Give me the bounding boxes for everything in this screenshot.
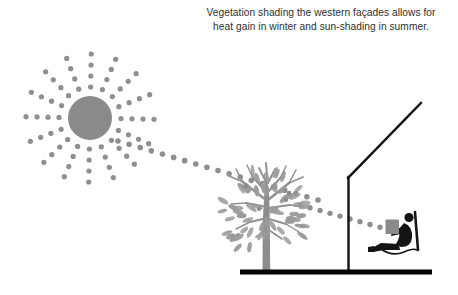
sun-ray — [116, 128, 151, 146]
sun-ray — [116, 92, 152, 109]
sun-ray-dot — [58, 85, 63, 90]
solar-ray-dot — [327, 211, 332, 216]
sun-ray-dot — [117, 146, 122, 151]
sun-ray-dot — [109, 138, 114, 143]
sun-ray-dot — [129, 116, 134, 121]
sun-ray-dot — [87, 157, 92, 162]
tree-leaf — [233, 242, 243, 253]
tree-leaf — [294, 184, 304, 194]
sun-ray — [118, 116, 156, 122]
sun-ray-dot — [99, 144, 104, 149]
sun-ray-dot — [86, 168, 91, 173]
solar-ray-dot — [337, 213, 342, 218]
sun-ray-dot — [110, 94, 115, 99]
person-foot — [368, 246, 375, 252]
sun-ray-dot — [137, 96, 142, 101]
sun-ray-dot — [34, 114, 39, 119]
sun-ray-dot — [39, 94, 44, 99]
sun-ray — [29, 90, 64, 108]
sun-ray-dot — [49, 99, 54, 104]
sun-ray-dot — [113, 57, 118, 62]
sun-ray-dot — [126, 132, 131, 137]
sun-ray-dot — [23, 114, 28, 119]
illustration-svg — [0, 0, 458, 295]
sun-ray-dot — [126, 79, 131, 84]
solar-ray-dot — [317, 208, 322, 213]
tree-leaf — [247, 242, 253, 253]
sun-ray-dot — [71, 154, 76, 159]
tree-leaf — [216, 195, 229, 206]
solar-ray-dot — [149, 148, 155, 154]
solar-ray-dot — [126, 141, 132, 147]
sun-ray — [62, 144, 80, 179]
sun-group — [23, 51, 156, 184]
diagram-canvas: Vegetation shading the western façades a… — [0, 0, 458, 295]
sun-ray-dot — [62, 174, 67, 179]
solar-ray-dot — [357, 219, 362, 224]
person-legs — [372, 243, 400, 252]
tree-leaf — [300, 223, 310, 229]
sun-ray — [23, 114, 61, 120]
sun-ray-dot — [104, 77, 109, 82]
tree-leaf — [276, 226, 286, 236]
book-icon — [386, 220, 400, 235]
sun-ray-dot — [49, 152, 54, 157]
solar-ray-dot — [315, 197, 321, 203]
sun-ray-dot — [57, 145, 62, 150]
sun-ray — [88, 51, 94, 89]
sun-ray-dot — [103, 155, 108, 160]
sun-ray-dot — [59, 103, 64, 108]
sun-ray-dot — [28, 139, 33, 144]
sun-ray-dot — [41, 160, 46, 165]
sun-ray — [28, 127, 64, 144]
solar-ray-dot — [204, 164, 210, 170]
solar-ray-dot — [193, 161, 199, 167]
sun-ray — [109, 138, 137, 167]
sun-ray-dot — [66, 93, 71, 98]
solar-ray-dot — [115, 138, 121, 144]
solar-ray-dot — [182, 158, 188, 164]
sun-ray-dot — [89, 51, 94, 56]
sun-ray-dot — [118, 86, 123, 91]
chair-back — [415, 212, 418, 250]
sun-ray — [100, 57, 118, 92]
sun-ray — [64, 56, 81, 92]
sun-ray — [110, 71, 139, 99]
ground-line — [240, 270, 432, 275]
sun-ray-dot — [151, 117, 156, 122]
sun-ray-dot — [68, 66, 73, 71]
sun-ray-dot — [134, 71, 139, 76]
tree-leaf — [296, 230, 308, 241]
sun-ray-dot — [75, 144, 80, 149]
sun-ray-dot — [76, 87, 81, 92]
sun-ray-dot — [118, 116, 123, 121]
building-roof-line — [348, 103, 421, 178]
sun-ray-dot — [86, 179, 91, 184]
sun-ray-dot — [132, 162, 137, 167]
solar-ray-dot — [171, 155, 177, 161]
sun-ray-dot — [147, 92, 152, 97]
solar-ray-dot — [367, 222, 372, 227]
solar-ray-dot — [137, 145, 143, 151]
solar-ray-dot — [215, 168, 221, 174]
sun-ray-dot — [38, 135, 43, 140]
sun-ray-dot — [107, 165, 112, 170]
sun-ray-dot — [109, 67, 114, 72]
sun-ray-dot — [48, 131, 53, 136]
sun-ray — [43, 69, 71, 98]
tree-leaf — [282, 235, 292, 246]
sun-ray-dot — [43, 69, 48, 74]
sun-ray-dot — [124, 154, 129, 159]
sun-disc — [68, 96, 112, 140]
sun-ray-dot — [88, 62, 93, 67]
sun-ray-dot — [88, 73, 93, 78]
sun-ray-dot — [59, 127, 64, 132]
sun-ray-dot — [88, 84, 93, 89]
sun-ray-dot — [127, 100, 132, 105]
sun-ray-dot — [29, 90, 34, 95]
sun-ray — [41, 137, 70, 165]
sun-ray-dot — [87, 146, 92, 151]
sun-ray-dot — [136, 137, 141, 142]
sun-ray-dot — [66, 164, 71, 169]
person-reclining-group — [368, 212, 418, 254]
